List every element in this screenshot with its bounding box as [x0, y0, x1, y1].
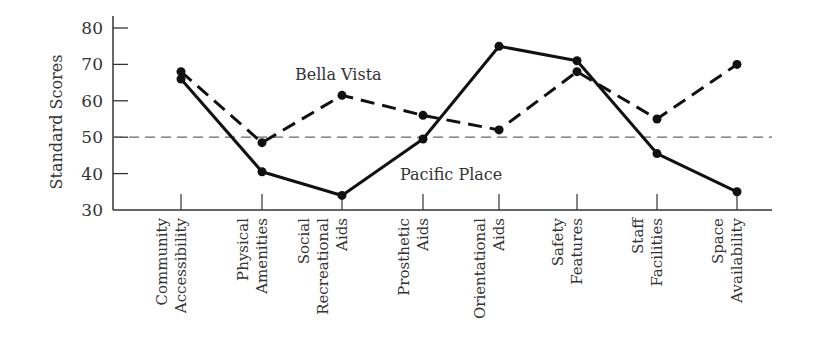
x-category-label: Physical [234, 218, 252, 281]
y-tick-label: 40 [81, 164, 103, 184]
x-category-label: Accessibility [172, 217, 190, 314]
series-annotation: Pacific Place [400, 165, 502, 184]
data-point [495, 125, 504, 134]
data-point [573, 67, 582, 76]
series-annotation: Bella Vista [295, 65, 382, 84]
x-category-label: Features [568, 218, 586, 285]
data-point [733, 60, 742, 69]
data-point [338, 191, 347, 200]
data-point [338, 91, 347, 100]
y-tick-label: 60 [81, 91, 103, 111]
x-category-label: Social [295, 218, 313, 264]
x-category-label: Aids [414, 218, 432, 252]
data-point [419, 111, 428, 120]
x-category-label: Community [153, 217, 171, 305]
data-point [258, 167, 267, 176]
x-category-label: Recreational [314, 218, 332, 315]
y-tick-label: 30 [81, 200, 103, 220]
y-tick-label: 70 [81, 54, 103, 74]
x-category-label: Space [709, 218, 727, 264]
data-point [258, 138, 267, 147]
y-tick-label: 80 [81, 18, 103, 38]
x-category-label: Amenities [253, 218, 271, 295]
category-labels: CommunityAccessibilityPhysicalAmenitiesS… [153, 217, 746, 319]
x-category-label: Facilities [648, 218, 666, 287]
x-category-label: Availability [728, 217, 746, 303]
data-point [733, 187, 742, 196]
data-point [653, 115, 662, 124]
data-point [573, 56, 582, 65]
data-point [653, 149, 662, 158]
axes: 304050607080Standard Scores [47, 16, 772, 220]
x-category-label: Orientational [471, 218, 489, 319]
x-category-label: Safety [549, 217, 567, 266]
x-category-label: Aids [490, 218, 508, 252]
x-category-label: Staff [629, 217, 647, 254]
series-bella-vista [177, 60, 742, 147]
line-chart: 304050607080Standard Scores CommunityAcc… [0, 0, 813, 359]
data-point [177, 74, 186, 83]
y-axis-title: Standard Scores [47, 55, 66, 190]
x-category-label: Aids [333, 218, 351, 252]
x-category-label: Prosthetic [395, 218, 413, 296]
data-point [495, 42, 504, 51]
data-point [419, 135, 428, 144]
y-tick-label: 50 [81, 127, 103, 147]
